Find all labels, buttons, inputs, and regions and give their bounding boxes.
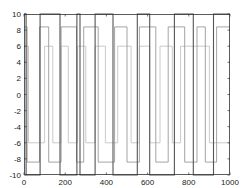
y-tick-label: 0 xyxy=(17,91,22,100)
y-tick-label: 8 xyxy=(17,26,22,35)
y-tick-label: -6 xyxy=(14,139,22,148)
y-tick-label: -10 xyxy=(9,171,21,180)
line-chart-canvas: 02004006008001000 -10-8-6-4-20246810 xyxy=(0,0,249,188)
x-tick-label: 600 xyxy=(141,178,155,187)
x-tick-label: 200 xyxy=(59,178,73,187)
y-tick-label: -4 xyxy=(14,123,22,132)
x-tick-label: 0 xyxy=(22,178,27,187)
y-tick-label: -2 xyxy=(14,107,22,116)
y-tick-label: -8 xyxy=(14,155,22,164)
chart: 02004006008001000 -10-8-6-4-20246810 xyxy=(0,0,249,188)
y-tick-label: 10 xyxy=(12,10,21,19)
x-tick-label: 400 xyxy=(100,178,114,187)
x-tick-label: 1000 xyxy=(221,178,239,187)
x-tick-label: 800 xyxy=(182,178,196,187)
y-tick-label: 6 xyxy=(17,42,22,51)
y-tick-label: 2 xyxy=(17,74,22,83)
y-tick-label: 4 xyxy=(17,58,22,67)
